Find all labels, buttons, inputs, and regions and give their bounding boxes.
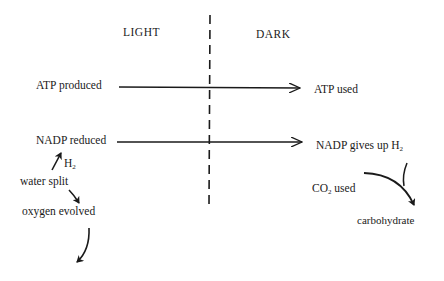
h2-to-carbohydrate-arrow xyxy=(403,163,407,186)
water-to-oxygen-arrow xyxy=(69,190,79,203)
co2-to-carbohydrate-arrow xyxy=(364,173,414,205)
oxygen-evolved-label: oxygen evolved xyxy=(22,206,95,218)
dark-header: DARK xyxy=(256,29,291,41)
nadp-gives-up-h2-label: NADP gives up H2 xyxy=(316,140,403,153)
oxygen-release-arrow xyxy=(77,228,89,262)
subscript-2: 2 xyxy=(72,163,76,171)
carbohydrate-label: carbohydrate xyxy=(357,215,414,226)
light-dark-divider xyxy=(209,15,210,206)
used-text: used xyxy=(331,182,355,194)
subscript-2: 2 xyxy=(400,145,404,153)
nadp-gives-up-text: NADP gives up H xyxy=(316,139,400,151)
light-header: LIGHT xyxy=(123,27,160,39)
h2-arrow xyxy=(52,153,61,170)
h2-label: H2 xyxy=(64,158,76,171)
atp-used-label: ATP used xyxy=(314,84,358,96)
co2-used-label: CO2 used xyxy=(312,183,355,196)
water-split-label: water split xyxy=(20,176,68,188)
atp-produced-label: ATP produced xyxy=(36,80,102,92)
atp-arrow xyxy=(119,87,300,88)
co-text: CO xyxy=(312,182,328,194)
nadp-reduced-label: NADP reduced xyxy=(36,135,106,147)
